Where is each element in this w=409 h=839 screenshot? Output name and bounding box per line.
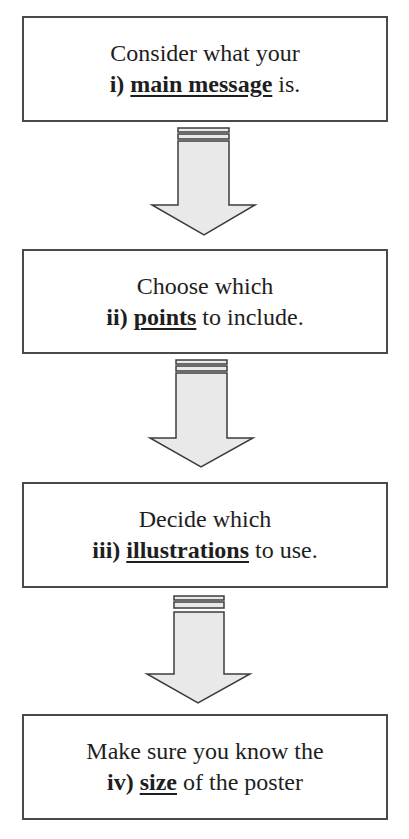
step-line-1: Decide which [139,504,272,535]
step-line-1: Consider what your [110,38,299,69]
step-line-2: ii) points to include. [106,302,303,333]
step-keyword: points [134,304,197,330]
step-number: ii) [106,304,127,330]
step-line-2: iv) size of the poster [107,767,303,798]
step-box-points: Choose which ii) points to include. [22,249,388,354]
step-number: i) [110,71,125,97]
step-keyword: illustrations [126,537,249,563]
step-suffix: to include. [196,304,303,330]
step-suffix: of the poster [177,769,303,795]
step-number: iii) [92,537,120,563]
step-line-2: iii) illustrations to use. [92,535,317,566]
step-box-main-message: Consider what your i) main message is. [22,16,388,122]
step-number: iv) [107,769,134,795]
step-line-1: Make sure you know the [86,736,323,767]
step-suffix: to use. [249,537,318,563]
step-box-illustrations: Decide which iii) illustrations to use. [22,482,388,588]
step-line-2: i) main message is. [110,69,301,100]
step-line-1: Choose which [137,271,274,302]
step-box-size: Make sure you know the iv) size of the p… [22,714,388,820]
step-suffix: is. [272,71,300,97]
step-keyword: main message [130,71,272,97]
step-keyword: size [140,769,177,795]
